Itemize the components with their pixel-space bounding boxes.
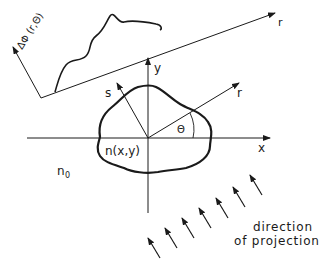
projection-diagram: ΔΦ (r,Θ) r y x s r Θ n(x,y) n 0 directio… xyxy=(0,0,321,265)
projection-caption: direction of projection xyxy=(234,220,320,248)
projection-caption-line1: direction xyxy=(253,220,313,234)
diagram-canvas: ΔΦ (r,Θ) r y x s r Θ n(x,y) n 0 directio… xyxy=(0,0,321,265)
surrounding-label: n xyxy=(57,164,65,178)
phase-curve xyxy=(55,14,161,92)
projection-arrow xyxy=(165,228,177,248)
projection-arrow xyxy=(199,208,211,228)
projection-r-label: r xyxy=(278,16,283,29)
x-axis-label: x xyxy=(258,141,265,155)
projection-arrow xyxy=(216,198,228,218)
surrounding-medium: n 0 xyxy=(57,164,70,180)
coordinate-axes: y x s r Θ xyxy=(27,58,270,213)
angle-label: Θ xyxy=(177,124,185,135)
angle-arc xyxy=(190,113,194,138)
y-axis-label: y xyxy=(154,61,161,75)
projection-arrow xyxy=(148,238,160,258)
projection-caption-line2: of projection xyxy=(234,234,320,248)
projection-arrow xyxy=(233,187,245,207)
s-axis xyxy=(117,83,148,138)
projection-arrow xyxy=(250,175,262,195)
phase-axis xyxy=(13,47,41,98)
object-label: n(x,y) xyxy=(105,144,140,158)
projection-arrow xyxy=(182,218,194,238)
phase-axis-label: ΔΦ (r,Θ) xyxy=(14,11,45,52)
surrounding-subscript: 0 xyxy=(65,171,70,180)
r-axis-label: r xyxy=(237,86,242,100)
s-axis-label: s xyxy=(105,86,111,100)
